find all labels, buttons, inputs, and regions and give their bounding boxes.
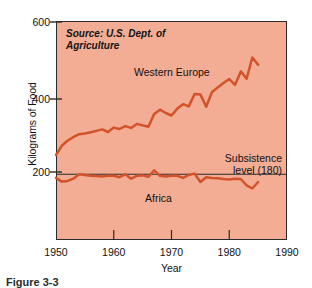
series-line-africa [56,170,258,188]
series-line-western-europe [56,58,258,156]
x-axis-ticks [114,230,230,240]
